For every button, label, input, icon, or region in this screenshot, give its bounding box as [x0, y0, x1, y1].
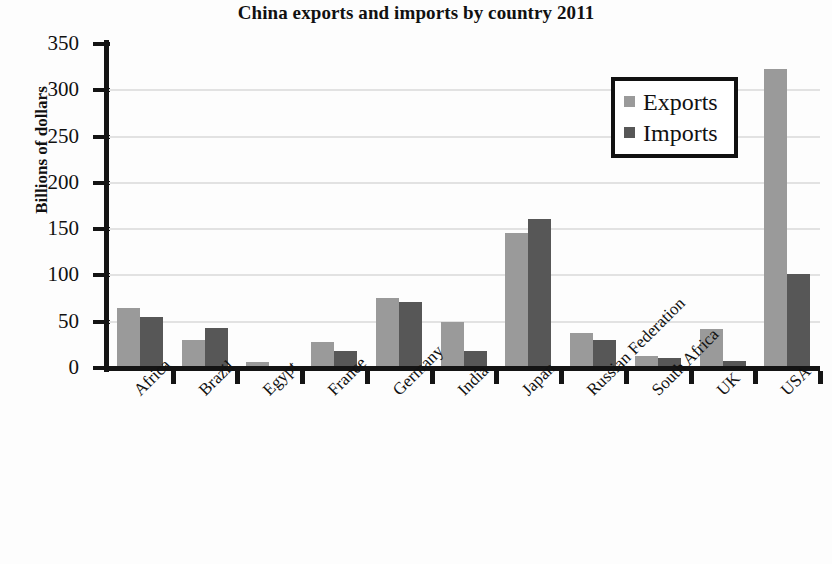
y-axis-tick-label: 150 — [17, 216, 79, 241]
bar-exports-brazil — [182, 340, 205, 368]
x-axis-tick — [624, 371, 629, 384]
chart-title: China exports and imports by country 201… — [0, 2, 832, 24]
x-axis-tick — [430, 371, 435, 384]
legend-label-exports: Exports — [643, 90, 718, 114]
x-axis-tick — [365, 371, 370, 384]
x-axis-tick — [494, 371, 499, 384]
y-axis-tick-label: 300 — [17, 77, 79, 102]
x-axis-tick — [300, 371, 305, 384]
bar-group — [376, 44, 422, 368]
legend-label-imports: Imports — [643, 121, 718, 145]
y-axis-tick-label: 350 — [17, 31, 79, 56]
chart-legend: Exports Imports — [611, 77, 738, 158]
legend-item-exports: Exports — [624, 86, 718, 117]
y-axis-tick-label: 200 — [17, 170, 79, 195]
x-axis-tick — [171, 371, 176, 384]
bar-exports-france — [311, 342, 334, 368]
x-axis-label: UK — [713, 369, 745, 401]
legend-item-imports: Imports — [624, 117, 718, 148]
bar-group — [505, 44, 551, 368]
x-axis-tick — [559, 371, 564, 384]
y-axis-ticks: 050100150200250300350 — [0, 0, 108, 564]
y-axis-tick-label: 50 — [17, 309, 79, 334]
bar-group — [441, 44, 487, 368]
y-axis-tick-label: 100 — [17, 262, 79, 287]
y-axis-tick-label: 0 — [17, 355, 79, 380]
bar-group — [117, 44, 163, 368]
x-axis-tick — [818, 371, 823, 384]
bar-group — [246, 44, 292, 368]
chart-container: China exports and imports by country 201… — [0, 0, 832, 564]
bar-exports-russian-federation — [570, 333, 593, 368]
bar-exports-germany — [376, 298, 399, 368]
bar-group — [182, 44, 228, 368]
bar-imports-usa — [787, 274, 810, 368]
y-axis-line — [104, 40, 109, 372]
bar-exports-usa — [764, 69, 787, 368]
legend-swatch-imports-icon — [624, 127, 635, 138]
bar-exports-japan — [505, 233, 528, 368]
bar-group — [311, 44, 357, 368]
x-axis-tick — [753, 371, 758, 384]
bar-group — [764, 44, 810, 368]
legend-swatch-exports-icon — [624, 96, 635, 107]
y-axis-tick-label: 250 — [17, 124, 79, 149]
bar-exports-india — [441, 322, 464, 368]
bar-group — [570, 44, 616, 368]
bar-exports-africa — [117, 308, 140, 368]
bar-imports-japan — [528, 219, 551, 368]
